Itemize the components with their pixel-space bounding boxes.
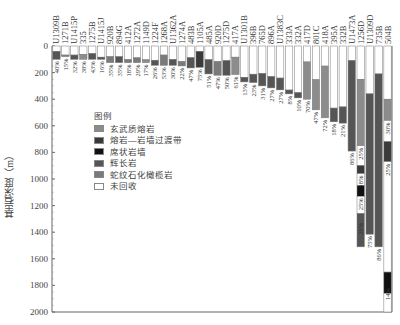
segment-unrecovered [241, 46, 248, 77]
segment-gabbro [285, 90, 292, 94]
recovery-label: 25% [357, 147, 364, 160]
recovery-label: 15% [62, 58, 69, 71]
legend-swatch [94, 171, 104, 178]
legend-label: 熔岩—岩墙过渡带 [110, 134, 182, 146]
segment-unrecovered [312, 46, 319, 80]
recovery-label: 21% [339, 125, 346, 138]
y-tick-label: 1200 [30, 201, 49, 211]
column-1256D: 1256D25%18%25%28% [356, 21, 366, 247]
recovery-label: 40% [53, 61, 60, 74]
segment-unrecovered [214, 46, 221, 62]
legend-swatch [94, 160, 104, 167]
segment-serpentinite [62, 55, 69, 57]
recovery-label: 27% [268, 89, 275, 102]
column-U1415J: U1415J16% [96, 17, 106, 73]
segment-gabbro [268, 77, 275, 88]
segment-unrecovered [285, 46, 292, 90]
recovery-label: 28% [357, 222, 364, 235]
recovery-label: 29% [134, 64, 141, 77]
recovery-label: 50% [223, 77, 230, 90]
segment-basalt [357, 79, 364, 146]
segment-unrecovered [205, 46, 212, 60]
y-tick-label: 400 [35, 94, 49, 104]
segment-unrecovered [223, 46, 230, 61]
recovery-label: 32% [71, 61, 78, 74]
y-tick-label: 600 [35, 121, 49, 131]
legend-item-unrecovered: 未回收 [94, 181, 182, 193]
recovery-label: 18% [125, 64, 132, 77]
recovery-label: 47% [214, 77, 221, 90]
segment-gabbro [330, 108, 337, 122]
recovery-label: 35% [116, 64, 123, 77]
segment-gabbro [241, 77, 248, 82]
segment-unrecovered [375, 46, 382, 74]
segment-unrecovered [348, 46, 355, 61]
recovery-label: 25% [357, 198, 364, 211]
recovery-label: 8% [286, 95, 293, 104]
legend-item-dike: 席状岩墙 [94, 146, 182, 158]
recovery-label: 16% [98, 61, 105, 74]
segment-serpentinite [214, 62, 221, 76]
recovery-label: 47% [312, 111, 319, 124]
legend-swatch [94, 137, 104, 144]
segment-unrecovered [80, 46, 87, 54]
segment-basalt [142, 60, 149, 63]
y-tick-label: 1800 [30, 280, 49, 290]
segment-serpentinite [106, 57, 113, 63]
segment-unrecovered [187, 46, 194, 58]
recovery-label: 27% [277, 91, 284, 104]
segment-unrecovered [106, 46, 113, 57]
segment-unrecovered [169, 46, 176, 59]
recovery-label: 61% [232, 76, 239, 89]
segment-unrecovered [384, 46, 391, 99]
legend-label: 蛇纹石化橄榄岩 [110, 169, 173, 181]
y-tick-label: 1000 [30, 174, 49, 184]
segment-gabbro [259, 74, 266, 86]
legend-item-serpentinite: 蛇纹石化橄榄岩 [94, 169, 182, 181]
site-label: 504B [383, 25, 393, 44]
segment-serpentinite [124, 60, 131, 63]
segment-gabbro [53, 51, 60, 59]
segment-transition [384, 142, 391, 162]
segment-gabbro [151, 60, 158, 65]
y-tick-label: 0 [44, 41, 49, 51]
segment-transition [196, 51, 203, 67]
segment-gabbro [366, 94, 373, 234]
segment-unrecovered [160, 46, 167, 55]
recovery-label: 14% [384, 287, 391, 300]
recovery-label: 22% [178, 67, 185, 80]
recovery-label: 25% [384, 163, 391, 176]
y-tick-label: 200 [35, 68, 49, 78]
recovery-label: 53% [160, 67, 167, 80]
recovery-label: 17% [142, 64, 149, 77]
legend-label: 玄武质熔岩 [110, 123, 155, 135]
segment-basalt [321, 66, 328, 118]
segment-gabbro [187, 58, 194, 68]
legend-swatch [94, 183, 104, 190]
y-tick-label: 1600 [30, 254, 49, 264]
column-504B: 504B30%25%14% [383, 25, 393, 312]
segment-gabbro [276, 78, 283, 90]
segment-unrecovered [71, 46, 78, 55]
recovery-label: 23% [250, 84, 257, 97]
segment-unrecovered [124, 46, 131, 60]
legend-item-basalt: 玄武质熔岩 [94, 123, 182, 135]
segment-unrecovered [89, 46, 96, 54]
recovery-label: 26% [151, 67, 158, 80]
recovery-label: 31% [259, 87, 266, 100]
segment-unrecovered [115, 46, 122, 57]
y-tick-label: 2000 [30, 307, 49, 317]
segment-gabbro [98, 57, 105, 59]
legend-swatch [94, 125, 104, 132]
column-U1309D: U1309D75% [365, 15, 375, 248]
depth-bar-chart: 0200400600800100012001400160018002000U13… [0, 0, 400, 325]
segment-unrecovered [250, 46, 257, 74]
segment-gabbro [223, 61, 230, 76]
legend-label: 席状岩墙 [110, 146, 146, 158]
recovery-label: 43% [89, 61, 96, 74]
recovery-label: 13% [241, 83, 248, 96]
segment-unrecovered [339, 46, 346, 107]
segment-serpentinite [178, 62, 185, 66]
segment-unrecovered [196, 46, 203, 51]
recovery-label: 30% [169, 67, 176, 80]
